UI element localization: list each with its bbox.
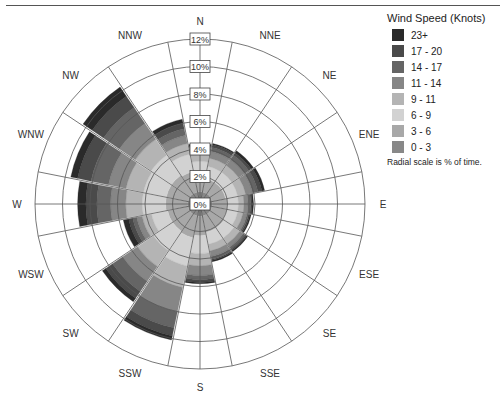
legend-item: 11 - 14 xyxy=(387,75,499,91)
legend-label: 0 - 3 xyxy=(411,142,431,153)
direction-label-ese: ESE xyxy=(359,269,379,280)
direction-label-s: S xyxy=(197,382,204,393)
svg-text:0%: 0% xyxy=(193,200,206,210)
direction-label-n: N xyxy=(196,16,203,27)
legend-item: 14 - 17 xyxy=(387,59,499,75)
legend-label: 17 - 20 xyxy=(411,46,442,57)
svg-text:8%: 8% xyxy=(193,90,206,100)
legend-title: Wind Speed (Knots) xyxy=(387,12,499,24)
svg-text:12%: 12% xyxy=(191,35,209,45)
direction-label-sse: SSE xyxy=(260,368,280,379)
direction-label-wnw: WNW xyxy=(18,128,44,139)
direction-label-ene: ENE xyxy=(359,128,380,139)
legend-label: 6 - 9 xyxy=(411,110,431,121)
direction-label-nne: NNE xyxy=(259,29,280,40)
legend-items: 23+17 - 2014 - 1711 - 149 - 116 - 93 - 6… xyxy=(387,27,499,155)
legend-swatch xyxy=(392,77,404,89)
direction-label-se: SE xyxy=(323,328,336,339)
legend-item: 3 - 6 xyxy=(387,123,499,139)
legend-label: 3 - 6 xyxy=(411,126,431,137)
legend-note: Radial scale is % of time. xyxy=(387,157,499,167)
legend-label: 9 - 11 xyxy=(411,94,436,105)
legend-item: 9 - 11 xyxy=(387,91,499,107)
legend-label: 11 - 14 xyxy=(411,78,441,89)
legend-swatch xyxy=(392,45,404,57)
legend-item: 23+ xyxy=(387,27,499,43)
svg-text:6%: 6% xyxy=(193,117,206,127)
direction-label-ssw: SSW xyxy=(119,368,142,379)
direction-label-e: E xyxy=(380,199,387,210)
legend-swatch xyxy=(392,109,404,121)
direction-label-wsw: WSW xyxy=(18,269,44,280)
svg-text:10%: 10% xyxy=(191,62,209,72)
svg-text:4%: 4% xyxy=(193,145,206,155)
legend-label: 14 - 17 xyxy=(411,62,442,73)
direction-label-sw: SW xyxy=(63,328,79,339)
direction-label-nnw: NNW xyxy=(118,29,142,40)
legend-swatch xyxy=(392,29,404,41)
direction-label-w: W xyxy=(12,199,21,210)
wedges xyxy=(71,87,265,340)
legend: Wind Speed (Knots) 23+17 - 2014 - 1711 -… xyxy=(387,12,499,167)
legend-item: 6 - 9 xyxy=(387,107,499,123)
legend-label: 23+ xyxy=(411,30,428,41)
direction-label-ne: NE xyxy=(322,69,336,80)
svg-text:2%: 2% xyxy=(193,172,206,182)
legend-swatch xyxy=(392,61,404,73)
legend-swatch xyxy=(392,125,404,137)
legend-swatch xyxy=(392,141,404,153)
direction-label-nw: NW xyxy=(62,69,79,80)
legend-item: 0 - 3 xyxy=(387,139,499,155)
legend-item: 17 - 20 xyxy=(387,43,499,59)
legend-swatch xyxy=(392,93,404,105)
